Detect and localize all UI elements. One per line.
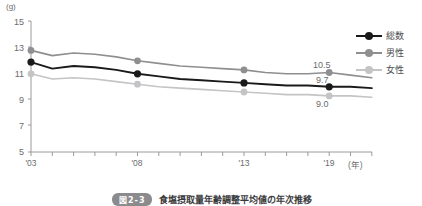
x-tick-label-19: '19 [317, 158, 341, 168]
legend-label-total: 総数 [386, 29, 404, 42]
chart-legend: 総数 男性 女性 [356, 28, 420, 79]
legend-item-male[interactable]: 男性 [356, 45, 420, 60]
legend-swatch-total-icon [356, 30, 382, 41]
x-axis-unit-label: (年) [348, 158, 363, 170]
legend-item-female[interactable]: 女性 [356, 62, 420, 77]
legend-swatch-female-icon [356, 64, 382, 75]
figure-number-badge: 図2-3 [112, 193, 152, 206]
x-tick-label-13: '13 [232, 158, 256, 168]
legend-swatch-male-icon [356, 47, 382, 58]
x-tick-label-08: '08 [125, 158, 149, 168]
figure-caption-text: 食塩摂取量年齢調整平均値の年次推移 [159, 193, 312, 206]
value-label-total: 9.7 [316, 75, 329, 85]
legend-label-male: 男性 [386, 46, 404, 59]
value-label-male: 10.5 [313, 60, 331, 70]
legend-item-total[interactable]: 総数 [356, 28, 420, 43]
x-tick-label-03: '03 [19, 158, 43, 168]
legend-label-female: 女性 [386, 63, 404, 76]
figure-caption: 図2-3 食塩摂取量年齢調整平均値の年次推移 [112, 193, 312, 206]
chart-container: (g) 15 13 11 9 7 5 [0, 0, 422, 206]
series-markers-male [28, 47, 333, 76]
value-label-female: 9.0 [316, 99, 329, 109]
x-tick-marks [31, 152, 372, 156]
